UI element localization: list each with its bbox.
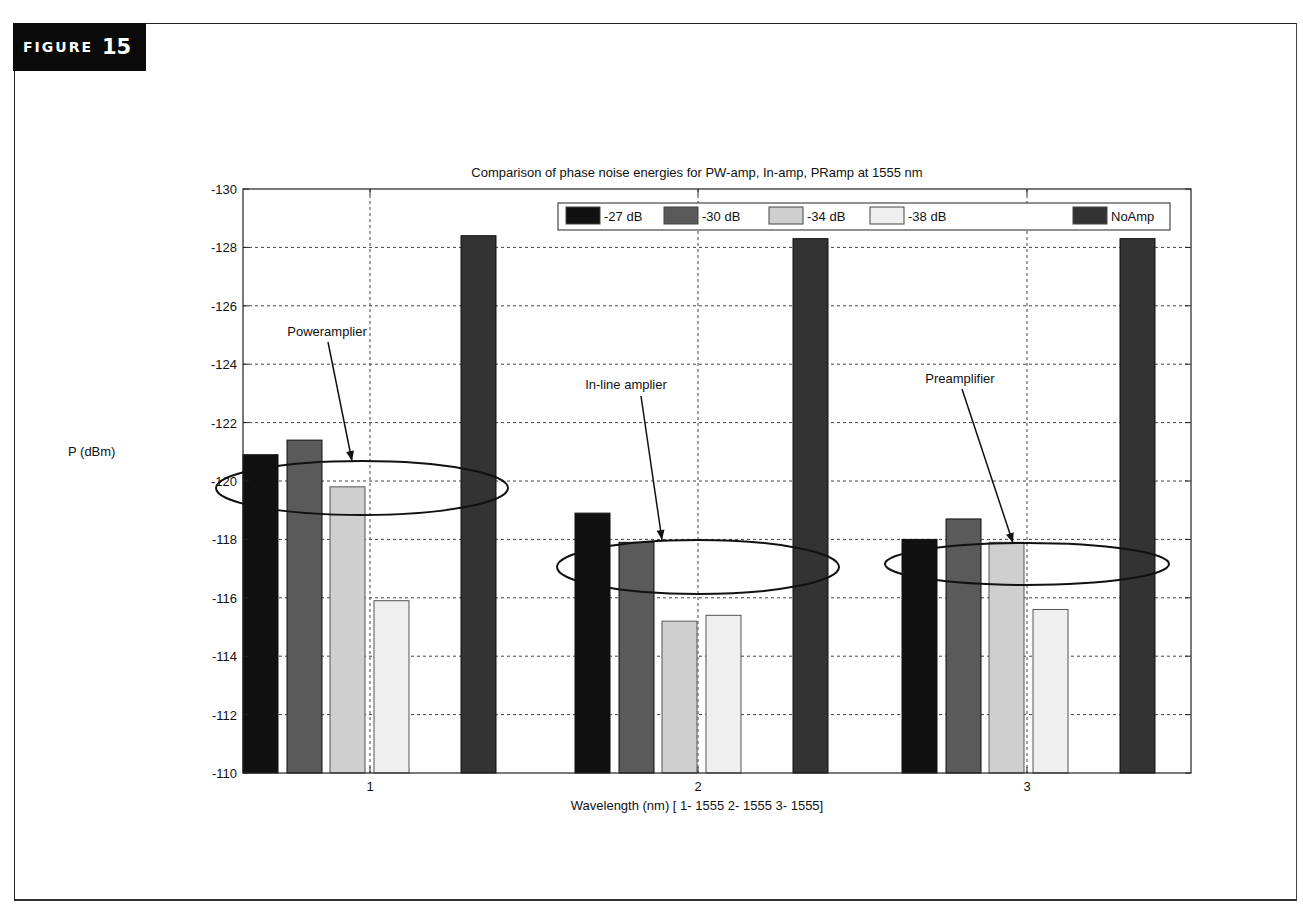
y-tick-label: -130 — [211, 182, 237, 197]
chart-title: Comparison of phase noise energies for P… — [471, 165, 922, 180]
bar--27db-group-1 — [243, 455, 278, 773]
y-tick-label: -116 — [212, 591, 237, 606]
bar--38db-group-1 — [374, 601, 409, 773]
y-tick-label: -114 — [212, 649, 237, 664]
annotation-arrow — [328, 342, 352, 461]
y-axis-label: P (dBm) — [68, 444, 115, 459]
annotation-label: Preamplifier — [925, 371, 995, 386]
bar--30db-group-3 — [946, 519, 981, 773]
bar--30db-group-1 — [287, 440, 322, 773]
x-axis-label: Wavelength (nm) [ 1- 1555 2- 1555 3- 155… — [571, 798, 823, 813]
legend-label: NoAmp — [1111, 209, 1154, 224]
y-tick-label: -118 — [212, 532, 237, 547]
arrowhead-icon — [1006, 532, 1014, 543]
x-tick-label: 3 — [1023, 779, 1030, 794]
y-tick-label: -122 — [211, 416, 237, 431]
annotation-label: Poweramplier — [287, 324, 367, 339]
arrowhead-icon — [657, 530, 665, 540]
bar-chart: Comparison of phase noise energies for P… — [0, 0, 1303, 919]
legend-swatch — [566, 207, 600, 224]
x-tick-label: 1 — [366, 779, 373, 794]
bar--34db-group-2 — [662, 621, 697, 773]
y-tick-label: -126 — [211, 299, 237, 314]
legend-swatch — [769, 207, 803, 224]
x-tick-label: 2 — [694, 779, 701, 794]
legend-label: -34 dB — [807, 209, 845, 224]
bar--38db-group-2 — [706, 615, 741, 773]
annotation-arrow — [641, 396, 662, 540]
y-tick-label: -110 — [212, 766, 237, 781]
bar--30db-group-2 — [619, 542, 654, 773]
bar--34db-group-1 — [330, 487, 365, 773]
legend-swatch — [870, 207, 904, 224]
bar-noamp-group-3 — [1120, 239, 1155, 773]
legend-label: -27 dB — [604, 209, 642, 224]
legend-label: -30 dB — [702, 209, 740, 224]
bar-noamp-group-2 — [793, 239, 828, 773]
bars — [243, 236, 1155, 773]
y-tick-label: -128 — [211, 240, 237, 255]
legend-swatch — [1073, 207, 1107, 224]
bar--38db-group-3 — [1033, 609, 1068, 773]
arrowhead-icon — [346, 450, 354, 461]
y-tick-label: -124 — [211, 357, 237, 372]
legend-label: -38 dB — [908, 209, 946, 224]
annotation-label: In-line amplier — [585, 377, 667, 392]
legend-swatch — [664, 207, 698, 224]
y-tick-label: -112 — [212, 708, 237, 723]
legend: -27 dB-30 dB-34 dB-38 dBNoAmp — [558, 203, 1170, 230]
bar--34db-group-3 — [989, 542, 1024, 773]
